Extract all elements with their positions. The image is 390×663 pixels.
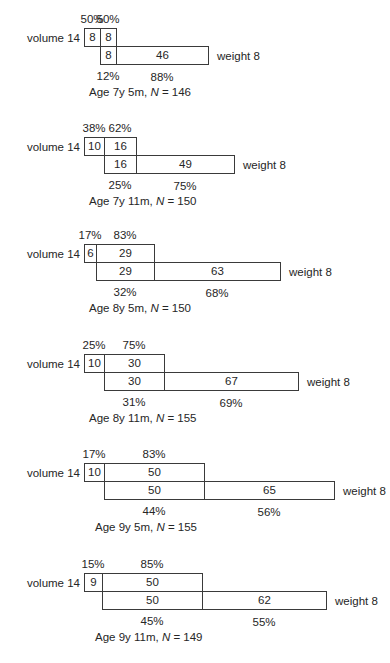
age-label: Age 9y 11m <box>95 631 156 643</box>
volume-label: volume 14 <box>27 576 80 590</box>
volume-only-cell: 10 <box>84 137 105 156</box>
volume-label: volume 14 <box>27 357 80 371</box>
weight-only-percent: 75% <box>173 179 196 193</box>
weight-overlap-percent: 45% <box>140 614 163 628</box>
volume-only-cell: 10 <box>84 463 105 482</box>
n-symbol: N <box>156 195 164 207</box>
age-label: Age 8y 11m <box>89 412 150 424</box>
panel-caption: Age 8y 11m, N = 155 <box>89 411 197 425</box>
weight-label: weight 8 <box>289 265 332 279</box>
volume-overlap-percent: 83% <box>142 447 165 461</box>
sample-size: 150 <box>177 195 196 207</box>
overlap-cell-bottom: 30 <box>104 372 165 391</box>
volume-overlap-percent: 85% <box>140 557 163 571</box>
volume-left-percent: 15% <box>81 557 104 571</box>
n-symbol: N <box>156 412 164 424</box>
n-symbol: N <box>150 302 158 314</box>
sample-size: 155 <box>177 412 196 424</box>
weight-label: weight 8 <box>307 375 350 389</box>
weight-label: weight 8 <box>243 158 286 172</box>
weight-overlap-percent: 44% <box>142 504 165 518</box>
overlap-cell-bottom: 16 <box>104 155 137 174</box>
overlap-cell-top: 50 <box>102 573 203 592</box>
volume-only-cell: 10 <box>84 354 105 373</box>
panel-caption: Age 9y 11m, N = 149 <box>95 630 203 644</box>
volume-left-percent: 17% <box>78 228 101 242</box>
volume-overlap-percent: 75% <box>122 338 145 352</box>
volume-left-percent: 17% <box>82 447 105 461</box>
panel-caption: Age 9y 5m, N = 155 <box>95 520 197 534</box>
panel-6: 15%85%volume 149505062weight 845%55%Age … <box>0 0 390 108</box>
weight-only-percent: 55% <box>252 615 275 629</box>
volume-label: volume 14 <box>27 247 80 261</box>
age-label: Age 9y 5m <box>95 521 150 533</box>
overlap-cell-bottom: 50 <box>104 481 205 500</box>
weight-only-cell: 67 <box>164 372 299 391</box>
sample-size: 155 <box>178 521 197 533</box>
weight-label: weight 8 <box>343 484 386 498</box>
overlap-cell-bottom: 50 <box>102 591 203 610</box>
weight-only-cell: 65 <box>204 481 335 500</box>
overlap-cell-top: 30 <box>104 354 165 373</box>
n-symbol: N <box>162 631 170 643</box>
volume-label: volume 14 <box>27 140 80 154</box>
volume-left-percent: 25% <box>82 338 105 352</box>
age-label: Age 7y 11m <box>89 195 150 207</box>
volume-label: volume 14 <box>27 466 80 480</box>
weight-only-cell: 49 <box>136 155 235 174</box>
weight-only-cell: 62 <box>202 591 327 610</box>
volume-left-percent: 38% <box>82 121 105 135</box>
volume-overlap-percent: 83% <box>113 228 136 242</box>
volume-overlap-percent: 62% <box>108 121 131 135</box>
sample-size: 149 <box>183 631 202 643</box>
panel-caption: Age 7y 11m, N = 150 <box>89 194 197 208</box>
weight-only-cell: 63 <box>154 262 281 281</box>
weight-only-percent: 68% <box>205 286 228 300</box>
overlap-cell-top: 16 <box>104 137 137 156</box>
weight-overlap-percent: 32% <box>113 285 136 299</box>
panel-caption: Age 8y 5m, N = 150 <box>89 301 191 315</box>
weight-overlap-percent: 25% <box>108 178 131 192</box>
sample-size: 150 <box>172 302 191 314</box>
age-label: Age 8y 5m <box>89 302 144 314</box>
overlap-diagram: 50%50%volume 1488846weight 812%88%Age 7y… <box>0 0 390 663</box>
weight-overlap-percent: 31% <box>122 395 145 409</box>
volume-only-cell: 9 <box>84 573 103 592</box>
overlap-cell-top: 50 <box>104 463 205 482</box>
weight-only-percent: 56% <box>257 505 280 519</box>
overlap-cell-top: 29 <box>96 244 155 263</box>
n-symbol: N <box>156 521 164 533</box>
overlap-cell-bottom: 29 <box>96 262 155 281</box>
weight-label: weight 8 <box>335 594 378 608</box>
weight-only-percent: 69% <box>219 396 242 410</box>
